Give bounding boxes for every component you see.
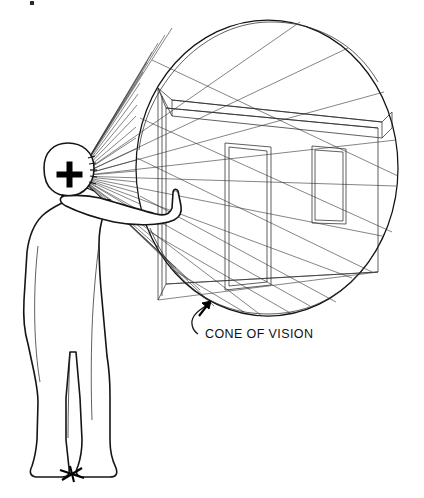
body-silhouette [24,195,117,477]
cone-of-vision-callout: CONE OF VISION [192,301,313,341]
cone-of-vision-illustration: CONE OF VISION [0,0,424,498]
perspective-convergence-lines [78,22,398,316]
door-opening [225,143,271,290]
cone-of-vision-label: CONE OF VISION [205,327,313,341]
window-opening [312,146,346,224]
diagram-canvas: CONE OF VISION [0,0,424,498]
floor-lines [158,272,378,300]
room-interior [158,88,392,300]
scan-speck [30,1,34,5]
ceiling-soffit-beam [158,88,392,138]
